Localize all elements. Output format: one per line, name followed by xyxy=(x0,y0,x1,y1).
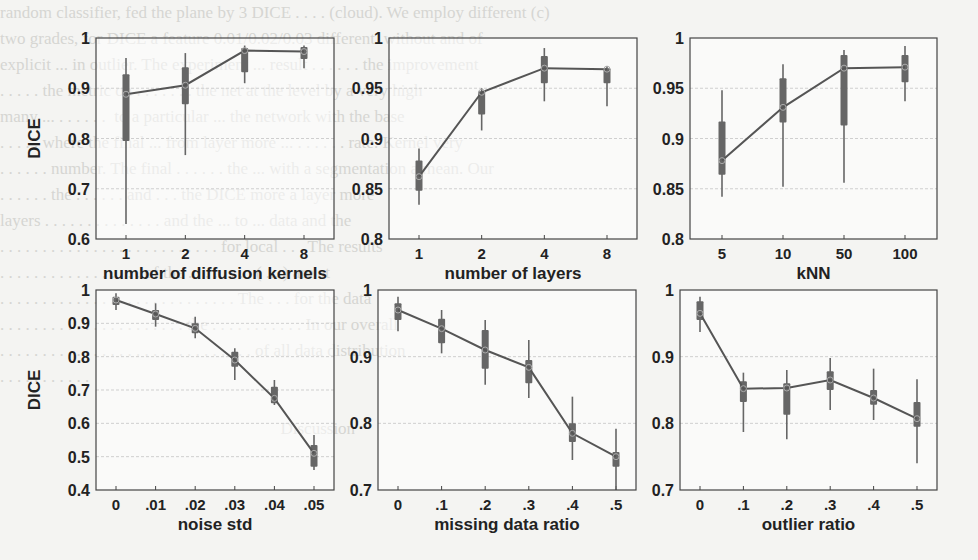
x-tick-label: .4 xyxy=(566,496,579,513)
y-tick-label: 1 xyxy=(665,282,674,299)
x-tick-label: .2 xyxy=(781,496,794,513)
x-tick-label: 0 xyxy=(112,496,120,513)
x-tick-label: 8 xyxy=(300,245,308,262)
x-tick-label: .3 xyxy=(824,496,837,513)
x-tick-label: .05 xyxy=(304,496,325,513)
x-tick-label: 2 xyxy=(477,245,485,262)
x-tick-label: .01 xyxy=(145,496,166,513)
y-tick-label: 0.9 xyxy=(652,349,674,366)
x-tick-label: 50 xyxy=(836,245,853,262)
y-tick-label: 1 xyxy=(81,282,90,299)
y-tick-label: 0.8 xyxy=(662,231,684,248)
x-tick-label: 100 xyxy=(892,245,917,262)
x-axis-label: number of diffusion kernels xyxy=(103,264,327,283)
y-axis-label: DICE xyxy=(25,370,44,411)
x-axis-label: kNN xyxy=(796,264,830,283)
x-axis-label: noise std xyxy=(178,515,253,534)
x-tick-label: .2 xyxy=(479,496,492,513)
subplot-6: 0.70.80.910.1.2.3.4.5outlier ratio xyxy=(652,282,937,534)
subplot-2: 0.80.850.90.9511248number of layers xyxy=(352,30,637,283)
x-axis-label: missing data ratio xyxy=(434,515,579,534)
y-tick-label: 0.6 xyxy=(68,231,90,248)
y-tick-label: 0.9 xyxy=(361,131,383,148)
y-tick-label: 0.9 xyxy=(350,349,372,366)
x-tick-label: 1 xyxy=(122,245,130,262)
x-tick-label: .4 xyxy=(867,496,880,513)
y-tick-label: 0.9 xyxy=(68,80,90,97)
y-tick-label: 0.8 xyxy=(361,231,383,248)
x-tick-label: 4 xyxy=(540,245,549,262)
y-tick-label: 0.85 xyxy=(352,181,383,198)
y-axis-label: DICE xyxy=(25,118,44,159)
x-tick-label: 1 xyxy=(415,245,423,262)
x-tick-label: .3 xyxy=(523,496,536,513)
box xyxy=(780,78,787,122)
x-axis-label: number of layers xyxy=(445,264,582,283)
y-tick-label: 0.8 xyxy=(652,415,674,432)
y-tick-label: 0.8 xyxy=(350,415,372,432)
y-tick-label: 1 xyxy=(374,30,383,47)
y-tick-label: 0.95 xyxy=(653,80,684,97)
y-tick-label: 0.7 xyxy=(68,181,90,198)
y-tick-label: 0.4 xyxy=(68,482,90,499)
x-tick-label: .5 xyxy=(610,496,623,513)
box xyxy=(719,121,726,174)
subplot-5: 0.70.80.910.1.2.3.4.5missing data ratio xyxy=(350,282,636,534)
y-tick-label: 0.9 xyxy=(662,131,684,148)
x-axis-label: outlier ratio xyxy=(762,515,856,534)
y-tick-label: 0.85 xyxy=(653,181,684,198)
y-tick-label: 0.8 xyxy=(68,349,90,366)
dice-ablation-figure: 0.60.70.80.911248number of diffusion ker… xyxy=(0,0,978,560)
plot-area xyxy=(378,290,636,490)
x-tick-label: 0 xyxy=(394,496,402,513)
box xyxy=(123,74,130,141)
x-tick-label: 2 xyxy=(181,245,189,262)
x-tick-label: 4 xyxy=(240,245,249,262)
x-tick-label: .1 xyxy=(435,496,448,513)
y-tick-label: 0.9 xyxy=(68,315,90,332)
x-tick-label: 10 xyxy=(775,245,792,262)
x-tick-label: 5 xyxy=(718,245,726,262)
box xyxy=(914,402,921,427)
y-tick-label: 0.7 xyxy=(68,382,90,399)
y-tick-label: 0.5 xyxy=(68,449,90,466)
x-tick-label: .03 xyxy=(224,496,245,513)
x-tick-label: 8 xyxy=(603,245,611,262)
y-tick-label: 1 xyxy=(81,30,90,47)
x-tick-label: .5 xyxy=(911,496,924,513)
y-tick-label: 1 xyxy=(363,282,372,299)
y-tick-label: 0.8 xyxy=(68,131,90,148)
x-tick-label: .1 xyxy=(737,496,750,513)
x-tick-label: 0 xyxy=(696,496,704,513)
y-tick-label: 0.6 xyxy=(68,415,90,432)
x-tick-label: .04 xyxy=(264,496,286,513)
y-tick-label: 0.7 xyxy=(350,482,372,499)
y-tick-label: 0.7 xyxy=(652,482,674,499)
subplot-3: 0.80.850.90.95151050100kNN xyxy=(653,30,937,283)
subplot-4: 0.40.50.60.70.80.910.01.02.03.04.05noise… xyxy=(25,282,334,534)
x-tick-label: .02 xyxy=(185,496,206,513)
plot-area xyxy=(680,290,937,490)
subplot-1: 0.60.70.80.911248number of diffusion ker… xyxy=(25,30,334,283)
y-tick-label: 1 xyxy=(675,30,684,47)
y-tick-label: 0.95 xyxy=(352,80,383,97)
